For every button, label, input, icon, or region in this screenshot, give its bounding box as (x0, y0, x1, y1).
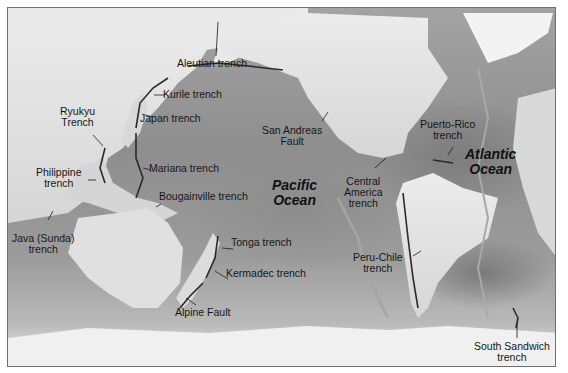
label-south-sandwich-trench: South Sandwich trench (474, 341, 550, 363)
label-text: Bougainville trench (159, 191, 248, 202)
label-kurile-trench: Kurile trench (163, 89, 222, 100)
label-text: Kurile trench (163, 89, 222, 100)
ocean-label-pacific-line2: Ocean (272, 193, 317, 208)
mariana-trench-line (136, 133, 143, 198)
label-text: Tonga trench (231, 237, 292, 248)
landmass-north-america (218, 13, 448, 158)
label-text: Fault (262, 136, 322, 147)
landmass-greenland (463, 13, 553, 63)
leader-puerto-rico (448, 147, 453, 155)
label-puerto-rico-trench: Puerto-Rico trench (420, 119, 475, 141)
ocean-label-atlantic: Atlantic Ocean (465, 147, 516, 177)
label-text: trench (344, 198, 383, 209)
label-central-america-trench: Central America trench (344, 176, 383, 209)
landmass-new-zealand (176, 233, 220, 308)
leader-central-america (375, 158, 386, 168)
label-japan-trench: Japan trench (140, 113, 201, 124)
puerto-rico-trench-line (433, 160, 453, 163)
label-text: trench (353, 263, 403, 274)
label-text: Mariana trench (149, 163, 219, 174)
ocean-label-pacific: Pacific Ocean (272, 178, 317, 208)
label-aleutian-trench: Aleutian trench (177, 58, 247, 69)
label-text: Alpine Fault (175, 307, 230, 318)
landmass-australia (68, 208, 183, 308)
label-kermadec-trench: Kermadec trench (226, 268, 306, 279)
label-san-andreas-fault: San Andreas Fault (262, 125, 322, 147)
label-text: trench (36, 178, 82, 189)
label-peru-chile-trench: Peru-Chile trench (353, 252, 403, 274)
label-text: trench (420, 130, 475, 141)
label-text: Kermadec trench (226, 268, 306, 279)
ocean-label-pacific-line1: Pacific (272, 178, 317, 193)
label-bougainville-trench: Bougainville trench (159, 191, 248, 202)
label-text: Japan trench (140, 113, 201, 124)
label-ryukyu-trench: Ryukyu Trench (60, 106, 95, 128)
label-alpine-fault: Alpine Fault (175, 307, 230, 318)
ocean-label-atlantic-line1: Atlantic (465, 147, 516, 162)
landmass-africa (513, 88, 556, 258)
ocean-label-atlantic-line2: Ocean (465, 162, 516, 177)
label-java-sunda-trench: Java (Sunda) trench (12, 233, 74, 255)
label-text: trench (474, 352, 550, 363)
label-text: Aleutian trench (177, 58, 247, 69)
label-tonga-trench: Tonga trench (231, 237, 292, 248)
leader-tonga (222, 248, 233, 249)
label-text: Trench (60, 117, 95, 128)
label-philippine-trench: Philippine trench (36, 167, 82, 189)
label-mariana-trench: Mariana trench (149, 163, 219, 174)
label-text: trench (12, 244, 74, 255)
